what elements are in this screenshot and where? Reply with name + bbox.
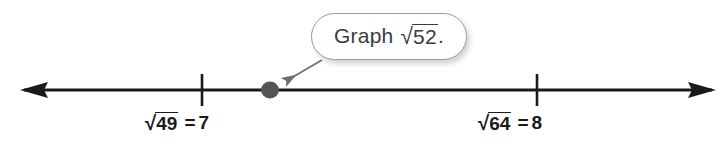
callout-text: Graph √ 52 . bbox=[334, 24, 444, 49]
radical-surd-icon: √ bbox=[400, 25, 413, 50]
tick-left-value: 7 bbox=[199, 112, 210, 134]
callout-radicand: 52 bbox=[412, 24, 438, 49]
tick-right-radicand: 64 bbox=[488, 112, 511, 134]
radical-surd-icon: √ bbox=[478, 113, 489, 135]
tick-left-radical: √ 49 bbox=[145, 112, 178, 134]
number-line-figure: Graph √ 52 . √ 49 = 7 √ 64 = 8 bbox=[0, 0, 726, 147]
tick-left-equals: = bbox=[178, 112, 198, 134]
tick-right-equals: = bbox=[511, 112, 531, 134]
tick-right-radical: √ 64 bbox=[478, 112, 511, 134]
callout-pointer-arrow bbox=[286, 60, 322, 81]
tick-right-value: 8 bbox=[532, 112, 543, 134]
axis-arrowhead-right bbox=[688, 82, 716, 98]
tick-label-right: √ 64 = 8 bbox=[478, 112, 542, 134]
callout-period: . bbox=[438, 24, 444, 48]
axis-arrowhead-left bbox=[20, 82, 48, 98]
tick-label-left: √ 49 = 7 bbox=[145, 112, 209, 134]
callout-radical-sqrt52: √ 52 bbox=[400, 24, 437, 49]
plotted-point-sqrt52 bbox=[261, 82, 279, 99]
callout-instruction-prefix: Graph bbox=[334, 24, 393, 48]
tick-left-radicand: 49 bbox=[155, 112, 178, 134]
callout-bubble: Graph √ 52 . bbox=[311, 13, 467, 60]
radical-surd-icon: √ bbox=[145, 113, 156, 135]
